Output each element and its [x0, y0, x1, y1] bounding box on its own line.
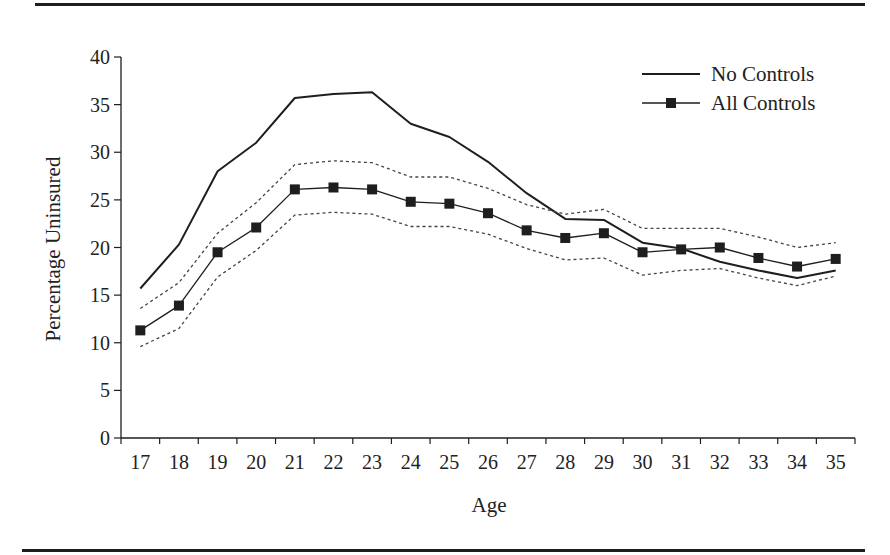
y-tick-label: 30: [90, 141, 110, 163]
y-tick-label: 35: [90, 94, 110, 116]
x-tick-label: 28: [555, 451, 575, 473]
data-point-square-icon: [444, 199, 454, 209]
data-point-square-icon: [522, 225, 532, 235]
x-tick-label: 30: [633, 451, 653, 473]
data-point-square-icon: [251, 222, 261, 232]
x-tick-label: 17: [130, 451, 150, 473]
data-point-square-icon: [213, 247, 223, 257]
y-axis-title: Percentage Uninsured: [41, 156, 65, 341]
x-axis: 17181920212223242526272829303132333435: [121, 438, 855, 473]
x-tick-label: 25: [439, 451, 459, 473]
legend-marker-square-icon: [666, 98, 676, 108]
data-point-square-icon: [367, 184, 377, 194]
data-point-square-icon: [831, 254, 841, 264]
y-tick-label: 40: [90, 46, 110, 68]
line-chart: 0510152025303540 17181920212223242526272…: [0, 0, 890, 555]
data-point-square-icon: [560, 233, 570, 243]
x-tick-label: 22: [323, 451, 343, 473]
data-point-square-icon: [792, 262, 802, 272]
data-point-square-icon: [483, 208, 493, 218]
legend-label-no-controls: No Controls: [711, 62, 814, 86]
x-tick-label: 35: [826, 451, 846, 473]
y-axis: 0510152025303540: [90, 46, 121, 449]
x-tick-label: 32: [710, 451, 730, 473]
x-tick-label: 33: [748, 451, 768, 473]
y-tick-label: 15: [90, 284, 110, 306]
data-point-square-icon: [290, 184, 300, 194]
x-tick-label: 18: [169, 451, 189, 473]
y-tick-label: 0: [100, 427, 110, 449]
series-all-controls-lower-bound: [140, 212, 835, 346]
y-tick-label: 20: [90, 237, 110, 259]
x-tick-label: 20: [246, 451, 266, 473]
legend: No Controls All Controls: [642, 62, 815, 115]
data-point-square-icon: [328, 182, 338, 192]
x-tick-label: 24: [401, 451, 421, 473]
data-point-square-icon: [638, 247, 648, 257]
x-tick-label: 34: [787, 451, 807, 473]
data-point-square-icon: [753, 253, 763, 263]
series-layer: [135, 92, 840, 346]
legend-label-all-controls: All Controls: [711, 91, 815, 115]
x-tick-label: 21: [285, 451, 305, 473]
y-tick-label: 10: [90, 332, 110, 354]
x-tick-label: 29: [594, 451, 614, 473]
x-tick-label: 26: [478, 451, 498, 473]
x-tick-label: 23: [362, 451, 382, 473]
data-point-square-icon: [406, 197, 416, 207]
x-tick-label: 31: [671, 451, 691, 473]
x-axis-title: Age: [472, 493, 507, 517]
x-tick-label: 27: [517, 451, 537, 473]
data-point-square-icon: [676, 244, 686, 254]
data-point-square-icon: [599, 228, 609, 238]
data-point-square-icon: [174, 301, 184, 311]
data-point-square-icon: [135, 325, 145, 335]
data-point-square-icon: [715, 243, 725, 253]
y-tick-label: 25: [90, 189, 110, 211]
x-tick-label: 19: [208, 451, 228, 473]
y-tick-label: 5: [100, 379, 110, 401]
